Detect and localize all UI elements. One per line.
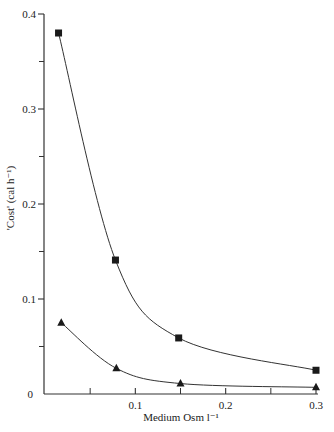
curve-squares bbox=[59, 33, 316, 370]
y-tick-label: 0.3 bbox=[22, 103, 36, 115]
x-tick-label: 0.3 bbox=[309, 399, 323, 411]
square-marker bbox=[313, 367, 320, 374]
y-tick-label: 0 bbox=[28, 388, 34, 400]
square-marker bbox=[175, 334, 182, 341]
chart: 00.10.20.30.40.10.20.3 Medium Osm l⁻¹ 'C… bbox=[0, 0, 334, 432]
curves bbox=[59, 33, 316, 387]
x-axis-label: Medium Osm l⁻¹ bbox=[143, 411, 219, 423]
triangle-marker bbox=[312, 383, 320, 391]
y-tick-label: 0.2 bbox=[22, 198, 36, 210]
markers bbox=[55, 30, 320, 391]
x-tick-label: 0.1 bbox=[128, 399, 142, 411]
y-tick-label: 0.4 bbox=[22, 8, 36, 20]
curve-triangles bbox=[61, 323, 316, 388]
y-axis-label: 'Cost' (cal h⁻¹) bbox=[4, 165, 17, 230]
triangle-marker bbox=[57, 318, 65, 326]
square-marker bbox=[55, 30, 62, 37]
tick-labels: 00.10.20.30.40.10.20.3 bbox=[22, 8, 323, 411]
y-tick-label: 0.1 bbox=[22, 293, 36, 305]
triangle-marker bbox=[112, 364, 120, 372]
x-tick-label: 0.2 bbox=[219, 399, 233, 411]
square-marker bbox=[112, 257, 119, 264]
